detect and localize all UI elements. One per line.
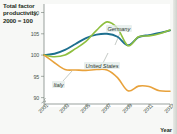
series-label-germany: Germany [106, 25, 132, 32]
y-axis-tick-label: 100 [22, 52, 39, 58]
series-line-united-states [44, 30, 170, 55]
chart-figure: Total factor productivity, 2000 = 100 90… [0, 0, 177, 134]
y-axis-tick-label: 110 [22, 10, 39, 16]
y-axis-tick-label: 95 [22, 74, 39, 80]
y-axis-tick-label: 105 [22, 31, 39, 37]
x-axis-title: Year [160, 127, 172, 133]
series-label-united-states: United States [84, 62, 120, 69]
annotation-leader-lines [63, 33, 120, 81]
page-edge-shadow [173, 0, 177, 134]
series-label-italy: Italy [52, 81, 65, 88]
y-axis-tick-label: 90 [22, 95, 39, 101]
annotation-leader-line [63, 71, 72, 81]
